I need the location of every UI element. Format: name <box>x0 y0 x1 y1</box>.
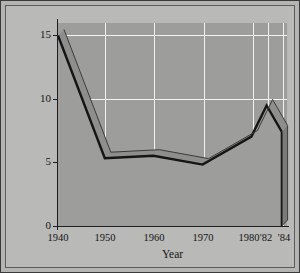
gridline-x-1970 <box>204 23 205 226</box>
x-tick-label-1950: 1950 <box>85 232 125 243</box>
gridline-x-1950 <box>105 23 106 226</box>
x-tick-label-1984: '84 <box>273 232 295 243</box>
x-axis-title: Year <box>58 248 287 260</box>
y-tick-label-5: 5 <box>27 156 51 167</box>
gridline-x-1982 <box>268 23 269 226</box>
y-tick-mark-15 <box>53 35 58 36</box>
y-tick-label-0: 0 <box>27 220 51 231</box>
y-tick-mark-0 <box>53 226 58 227</box>
plot-area <box>58 23 287 226</box>
y-tick-label-10: 10 <box>27 93 51 104</box>
gridline-x-1984 <box>283 23 284 226</box>
y-tick-mark-10 <box>53 99 58 100</box>
y-tick-mark-5 <box>53 162 58 163</box>
chart-figure: 15 10 5 0 1940 1950 1960 1970 1980 '82 '… <box>0 0 300 273</box>
gridline-x-1980 <box>253 23 254 226</box>
y-tick-label-15: 15 <box>27 29 51 40</box>
y-axis-line <box>57 19 58 230</box>
x-tick-label-1940: 1940 <box>38 232 78 243</box>
gridline-x-1960 <box>154 23 155 226</box>
x-tick-label-1970: 1970 <box>183 232 223 243</box>
x-axis-line <box>57 226 289 227</box>
x-tick-label-1960: 1960 <box>134 232 174 243</box>
